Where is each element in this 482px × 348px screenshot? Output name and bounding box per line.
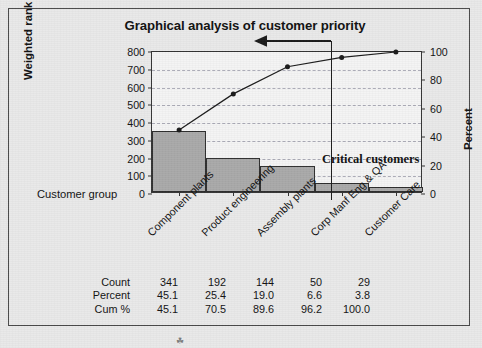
y-tick-label-left: 0: [105, 188, 145, 200]
cumulative-marker: [231, 91, 236, 96]
y-tick-label-right: 40: [430, 131, 464, 143]
y-tick-label-left: 300: [105, 135, 145, 147]
cumulative-percent-line: [152, 52, 423, 194]
scan-artifact-mark: ☘: [176, 336, 184, 346]
table-cell: 50: [274, 276, 322, 289]
table-row-label: Cum %: [76, 303, 130, 316]
chart-title: Graphical analysis of customer priority: [100, 18, 390, 33]
cumulative-marker: [177, 127, 182, 132]
cumulative-marker: [285, 64, 290, 69]
table-cell: 341: [130, 276, 178, 289]
table-cell: 29: [322, 276, 370, 289]
table-row-label: Percent: [76, 289, 130, 302]
table-row: Count3411921445029: [76, 276, 370, 289]
table-row: Percent45.125.419.06.63.8: [76, 289, 370, 302]
y-axis-label-left: Weighted rank: [22, 2, 34, 80]
y-tick-label-left: 800: [105, 46, 145, 58]
pareto-chart-figure: Graphical analysis of customer priority …: [0, 0, 482, 348]
table-cell: 89.6: [226, 303, 274, 316]
y-tick-label-left: 200: [105, 153, 145, 165]
y-tick-label-left: 100: [105, 170, 145, 182]
cumulative-marker: [393, 50, 398, 55]
y-tick-label-right: 60: [430, 103, 464, 115]
y-tick-label-right: 80: [430, 74, 464, 86]
pareto-data-table: Count3411921445029Percent45.125.419.06.6…: [76, 276, 370, 316]
table-cell: 45.1: [130, 289, 178, 302]
table-cell: 96.2: [274, 303, 322, 316]
table-cell: 3.8: [322, 289, 370, 302]
cumulative-marker: [339, 55, 344, 60]
plot-area: 0100200300400500600700800 020406080100: [151, 51, 422, 193]
y-tick-label-left: 400: [105, 117, 145, 129]
cumulative-line-path: [179, 52, 396, 130]
table-cell: 100.0: [322, 303, 370, 316]
table-cell: 45.1: [130, 303, 178, 316]
y-tick-label-left: 600: [105, 82, 145, 94]
y-tick-label-left: 500: [105, 99, 145, 111]
y-tick-label-right: 0: [430, 188, 464, 200]
y-tick-label-right: 20: [430, 160, 464, 172]
table-cell: 70.5: [178, 303, 226, 316]
table-row: Cum %45.170.589.696.2100.0: [76, 303, 370, 316]
critical-cutoff-line: [331, 41, 332, 200]
table-cell: 192: [178, 276, 226, 289]
critical-customers-annotation: Critical customers: [322, 152, 419, 167]
y-tick-label-right: 100: [430, 46, 464, 58]
y-tick-label-left: 700: [105, 64, 145, 76]
leftward-arrow-icon: [252, 32, 332, 52]
table-cell: 19.0: [226, 289, 274, 302]
table-row-label: Count: [76, 276, 130, 289]
table-cell: 25.4: [178, 289, 226, 302]
table-cell: 6.6: [274, 289, 322, 302]
table-cell: 144: [226, 276, 274, 289]
